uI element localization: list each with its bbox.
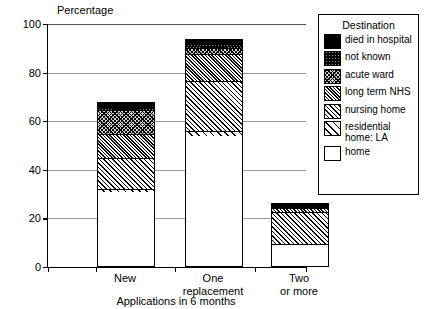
legend-item-acute-ward[interactable]: acute ward bbox=[324, 69, 418, 84]
legend-item-nursing-home[interactable]: nursing home bbox=[324, 104, 418, 119]
bar-new[interactable] bbox=[97, 102, 155, 267]
gridline-60 bbox=[48, 121, 306, 122]
y-axis-title: Percentage bbox=[57, 4, 113, 16]
legend-swatch-icon bbox=[324, 104, 341, 119]
legend-item-home[interactable]: home bbox=[324, 146, 418, 161]
legend-label: nursing home bbox=[345, 104, 406, 116]
y-tick-label-100: 100 bbox=[23, 18, 41, 30]
segment-nursing-home bbox=[98, 158, 154, 189]
x-tick-label-0: New bbox=[75, 272, 175, 285]
y-tick-60 bbox=[43, 121, 48, 122]
legend-entries: died in hospitalnot knownacute wardlong … bbox=[319, 34, 418, 161]
segment-long-term-nhs bbox=[98, 134, 154, 158]
x-tick-0 bbox=[48, 267, 49, 272]
legend-item-not-known[interactable]: not known bbox=[324, 51, 418, 66]
legend-item-residential[interactable]: residentialhome: LA bbox=[324, 121, 418, 143]
x-tick-label-2: Twoor more bbox=[249, 272, 349, 297]
y-tick-label-20: 20 bbox=[29, 212, 41, 224]
legend-swatch-icon bbox=[324, 86, 341, 101]
legend-swatch-icon bbox=[324, 121, 341, 136]
y-tick-20 bbox=[43, 218, 48, 219]
y-tick-label-80: 80 bbox=[29, 67, 41, 79]
bar-one-replacement[interactable] bbox=[185, 39, 243, 267]
y-tick-label-60: 60 bbox=[29, 115, 41, 127]
legend-label: home bbox=[345, 146, 370, 158]
y-tick-40 bbox=[43, 170, 48, 171]
legend-title: Destination bbox=[319, 19, 418, 31]
legend-swatch-icon bbox=[324, 69, 341, 84]
y-tick-label-40: 40 bbox=[29, 164, 41, 176]
legend-label: died in hospital bbox=[345, 34, 412, 46]
segment-home bbox=[98, 192, 154, 266]
legend-swatch-icon bbox=[324, 51, 341, 66]
gridline-20 bbox=[48, 218, 306, 219]
y-tick-80 bbox=[43, 73, 48, 74]
segment-acute-ward bbox=[98, 110, 154, 134]
legend-swatch-icon bbox=[324, 146, 341, 161]
plot-area: 020406080100 bbox=[47, 24, 306, 268]
legend-swatch-icon bbox=[324, 34, 341, 49]
legend-label: long term NHS bbox=[345, 86, 411, 98]
plot-top-border bbox=[48, 24, 306, 25]
gridline-80 bbox=[48, 73, 306, 74]
legend-item-long-term-nhs[interactable]: long term NHS bbox=[324, 86, 418, 101]
legend-label: not known bbox=[345, 51, 391, 63]
bar-two-or-more[interactable] bbox=[271, 203, 329, 267]
legend-label: acute ward bbox=[345, 69, 394, 81]
segment-long-term-nhs bbox=[186, 54, 242, 80]
y-tick-100 bbox=[43, 24, 48, 25]
segment-nursing-home bbox=[272, 212, 328, 244]
legend-item-died-in-hospital[interactable]: died in hospital bbox=[324, 34, 418, 49]
y-tick-label-0: 0 bbox=[35, 261, 41, 273]
legend-label: residentialhome: LA bbox=[345, 121, 391, 143]
legend-box: Destination died in hospitalnot knownacu… bbox=[318, 14, 419, 195]
chart-container: Percentage 020406080100 Applications in … bbox=[0, 0, 424, 309]
x-tick-label-1: Onereplacement bbox=[163, 272, 263, 297]
segment-home bbox=[186, 136, 242, 266]
gridline-40 bbox=[48, 170, 306, 171]
segment-home bbox=[272, 245, 328, 266]
segment-nursing-home bbox=[186, 81, 242, 132]
